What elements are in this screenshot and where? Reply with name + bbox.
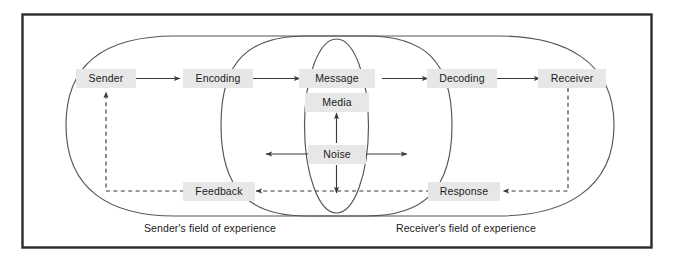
node-encoding: Encoding xyxy=(183,69,253,88)
node-noise: Noise xyxy=(308,145,366,164)
node-sender: Sender xyxy=(76,69,136,88)
diagram-canvas xyxy=(0,0,673,272)
node-receiver: Receiver xyxy=(538,69,606,88)
node-feedback: Feedback xyxy=(183,182,255,201)
communication-model-diagram: Sender Encoding Message Media Noise Deco… xyxy=(0,0,673,272)
caption-sender-field: Sender's field of experience xyxy=(144,222,276,234)
node-decoding: Decoding xyxy=(427,69,497,88)
caption-receiver-field: Receiver's field of experience xyxy=(396,222,536,234)
node-message: Message xyxy=(299,69,375,88)
node-media: Media xyxy=(305,93,369,112)
node-response: Response xyxy=(428,182,500,201)
